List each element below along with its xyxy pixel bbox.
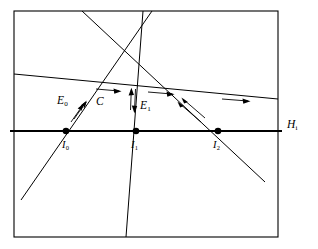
label-i1: I1 bbox=[131, 140, 138, 151]
label-i2: I2 bbox=[213, 140, 220, 151]
diagram-frame bbox=[14, 11, 278, 237]
label-i2-sub: 2 bbox=[217, 144, 220, 151]
label-e1-base: E bbox=[140, 99, 147, 111]
label-i1-sub: 1 bbox=[135, 144, 138, 151]
label-e0-sub: 0 bbox=[64, 100, 68, 108]
label-c: C bbox=[96, 96, 104, 108]
point-i0 bbox=[63, 128, 70, 135]
label-e0-base: E bbox=[57, 94, 64, 106]
label-hyperplane: Hi bbox=[287, 119, 297, 131]
diagram-vector-layer bbox=[0, 0, 318, 249]
label-e1: E1 bbox=[140, 100, 151, 112]
label-i1-base: I bbox=[131, 139, 135, 150]
label-e1-sub: 1 bbox=[147, 105, 151, 113]
arrow-i2-heads bbox=[177, 98, 187, 108]
label-c-base: C bbox=[96, 95, 104, 107]
label-i0: I0 bbox=[62, 140, 69, 151]
point-i1 bbox=[133, 128, 140, 135]
label-i0-sub: 0 bbox=[66, 144, 69, 151]
diagram-canvas: E0 C E1 I0 I1 I2 Hi bbox=[0, 0, 318, 249]
line-descending bbox=[82, 11, 265, 182]
label-e0: E0 bbox=[57, 95, 68, 107]
label-i2-base: I bbox=[213, 139, 217, 150]
line-c bbox=[14, 74, 278, 99]
line-e0 bbox=[21, 11, 152, 200]
point-i2 bbox=[215, 128, 222, 135]
arrow-c-heads bbox=[114, 88, 251, 103]
label-hi-sub: i bbox=[296, 124, 298, 132]
label-hi-base: H bbox=[287, 118, 295, 130]
label-i0-base: I bbox=[62, 139, 66, 150]
arrow-i2-group bbox=[179, 99, 205, 122]
